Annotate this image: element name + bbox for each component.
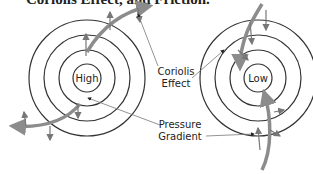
inflow-arrow-bottom: [262, 92, 270, 170]
pressure-label-line2: Gradient: [158, 131, 202, 142]
low-label: Low: [248, 73, 268, 84]
legend-labels: Coriolis Effect Pressure Gradient: [158, 66, 202, 142]
coriolis-label-line1: Coriolis: [158, 66, 195, 77]
high-label: High: [76, 73, 99, 84]
low-pressure-system: Low: [192, 4, 313, 170]
flow-arrow-bottom: [12, 104, 80, 126]
high-pressure-system: High: [12, 6, 160, 140]
pressure-label-line1: Pressure: [159, 119, 202, 130]
pressure-systems-diagram: High Low: [0, 0, 313, 174]
coriolis-label-line2: Effect: [162, 78, 191, 89]
